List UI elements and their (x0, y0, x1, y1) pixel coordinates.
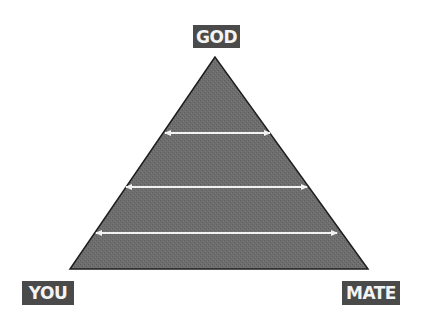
label-you: YOU (22, 281, 74, 305)
label-god: GOD (193, 25, 240, 48)
triangle-graphic (0, 0, 428, 328)
label-mate: MATE (342, 281, 400, 305)
triangle-shape (70, 57, 368, 269)
triangle-diagram: GOD YOU MATE (0, 0, 428, 328)
